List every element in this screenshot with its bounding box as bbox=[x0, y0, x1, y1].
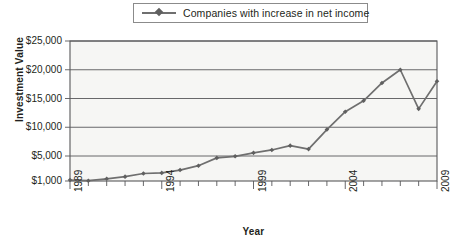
y-axis-tick-label: $5,000 bbox=[0, 151, 62, 161]
y-axis-tick-label: $20,000 bbox=[0, 65, 62, 75]
x-axis-tick-label: 2009 bbox=[441, 170, 451, 192]
plot-area bbox=[0, 0, 451, 244]
x-axis-tick-label: 2004 bbox=[349, 170, 359, 192]
y-axis-tick-label: $25,000 bbox=[0, 36, 62, 46]
x-axis-ticks bbox=[70, 181, 437, 189]
y-axis-ticks bbox=[65, 41, 70, 181]
y-axis-tick-label: $15,000 bbox=[0, 94, 62, 104]
plot-background bbox=[70, 41, 437, 181]
x-axis-tick-label: 1994 bbox=[166, 170, 176, 192]
x-axis-tick-label: 1999 bbox=[258, 170, 268, 192]
y-axis-tick-label: $1,000 bbox=[0, 176, 62, 186]
x-axis-tick-label: 1989 bbox=[74, 170, 84, 192]
y-axis-tick-label: $10,000 bbox=[0, 122, 62, 132]
line-chart: Companies with increase in net income In… bbox=[0, 0, 451, 244]
